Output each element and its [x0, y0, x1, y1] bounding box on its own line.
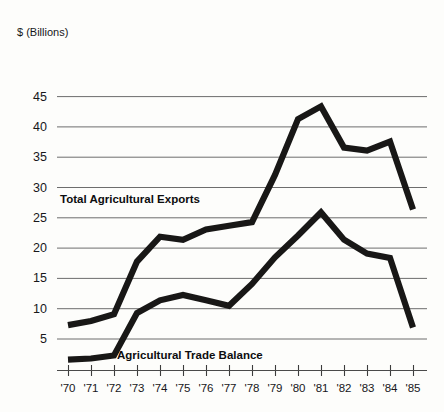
y-tick-label: 15: [33, 271, 47, 285]
series-label-total-agricultural-exports: Total Agricultural Exports: [60, 193, 200, 205]
x-tick-label: '73: [130, 382, 145, 394]
x-tick-label: '80: [291, 382, 306, 394]
y-tick-label: 40: [33, 120, 47, 134]
x-tick-label: '71: [84, 382, 99, 394]
x-tick-label: '82: [337, 382, 352, 394]
x-tick-label: '81: [314, 382, 329, 394]
line-chart: $ (Billions) 45403530252015105 '70'71'72…: [0, 0, 444, 412]
y-axis-unit-label: $ (Billions): [17, 26, 68, 38]
y-tick-label: 10: [33, 302, 47, 316]
x-tick-label: '76: [199, 382, 214, 394]
y-tick-label: 30: [33, 181, 47, 195]
chart-container: $ (Billions) 45403530252015105 '70'71'72…: [0, 0, 444, 412]
x-tick-label: '78: [245, 382, 260, 394]
y-axis-tick-labels: 45403530252015105: [33, 90, 47, 346]
y-tick-label: 5: [40, 332, 47, 346]
y-tick-label: 45: [33, 90, 47, 104]
x-tick-label: '70: [61, 382, 76, 394]
y-tick-label: 20: [33, 241, 47, 255]
x-tick-label: '75: [176, 382, 191, 394]
x-tick-label: '84: [383, 382, 399, 394]
y-tick-label: 35: [33, 150, 47, 164]
x-tick-label: '85: [406, 382, 421, 394]
data-series-lines: [68, 106, 413, 359]
series-label-agricultural-trade-balance: Agricultural Trade Balance: [117, 349, 263, 361]
x-tick-label: '72: [107, 382, 122, 394]
series-line-agricultural-trade-balance: [68, 212, 413, 359]
x-tick-label: '79: [268, 382, 283, 394]
x-tick-label: '77: [222, 382, 237, 394]
y-tick-label: 25: [33, 211, 47, 225]
x-axis-tick-labels: '70'71'72'73'74'75'76'77'78'79'80'81'82'…: [61, 382, 421, 394]
gridlines: [57, 97, 427, 339]
x-tick-label: '74: [153, 382, 169, 394]
x-tick-label: '83: [360, 382, 375, 394]
